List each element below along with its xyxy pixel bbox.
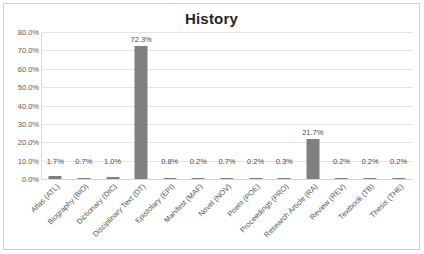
chart-title: History [4,10,419,27]
bar[interactable] [249,178,262,180]
y-axis-tick-label: 80.0% [5,28,39,37]
bar[interactable] [364,178,377,180]
x-axis-label-slot: Novel (NOV) [213,180,242,250]
bar[interactable] [335,178,348,180]
x-axis-label-slot: Thesis (THE) [384,180,413,250]
y-axis-tick-label: 50.0% [5,83,39,92]
bar[interactable] [135,46,148,179]
bar[interactable] [77,178,90,180]
bar-group: 0.2% [384,32,413,179]
y-axis-tick-label: 20.0% [5,138,39,147]
bar-group: 1.0% [98,32,127,179]
bar[interactable] [220,178,233,180]
bar-value-label: 1.0% [104,157,121,166]
bar[interactable] [163,178,176,180]
bar-value-label: 0.2% [247,157,264,166]
bar[interactable] [49,176,62,179]
bar-group: 21.7% [299,32,328,179]
bar-value-label: 0.8% [161,157,178,166]
bar-group: 0.2% [356,32,385,179]
bar-group: 0.2% [184,32,213,179]
x-axis-label-slot: Manifest (MAF) [184,180,213,250]
bar-value-label: 0.7% [218,157,235,166]
bar-value-label: 0.2% [190,157,207,166]
plot-area: 1.7%0.7%1.0%72.3%0.8%0.2%0.7%0.2%0.3%21.… [41,32,413,179]
bar-value-label: 72.3% [131,35,152,44]
bar-group: 1.7% [41,32,70,179]
bar-value-label: 0.3% [276,157,293,166]
bar-group: 0.8% [155,32,184,179]
y-axis-tick-label: 30.0% [5,119,39,128]
bar-value-label: 0.2% [390,157,407,166]
bar[interactable] [392,178,405,180]
bar-value-label: 0.2% [333,157,350,166]
y-axis-tick-label: 10.0% [5,156,39,165]
bar-group: 0.3% [270,32,299,179]
bar[interactable] [192,178,205,180]
bar-value-label: 0.7% [75,157,92,166]
bar[interactable] [278,178,291,180]
bar[interactable] [106,177,119,179]
bar-group: 0.2% [327,32,356,179]
y-axis-tick-label: 70.0% [5,46,39,55]
y-axis-tick-label: 60.0% [5,64,39,73]
bar-value-label: 0.2% [362,157,379,166]
x-axis-category-labels: Atlas (ATL)Biography (BIO)Dictionary (DI… [41,180,413,250]
chart-area: History 0.0%10.0%20.0%30.0%40.0%50.0%60.… [3,3,420,250]
bar[interactable] [306,139,319,179]
y-axis-tick-label: 0.0% [5,175,39,184]
y-axis-tick-label: 40.0% [5,101,39,110]
bar-group: 72.3% [127,32,156,179]
bar-value-label: 21.7% [302,128,323,137]
bar-group: 0.2% [241,32,270,179]
bar-group: 0.7% [70,32,99,179]
bar-value-label: 1.7% [47,157,64,166]
y-axis-tick-labels: 0.0%10.0%20.0%30.0%40.0%50.0%60.0%70.0%8… [4,32,39,179]
bar-group: 0.7% [213,32,242,179]
